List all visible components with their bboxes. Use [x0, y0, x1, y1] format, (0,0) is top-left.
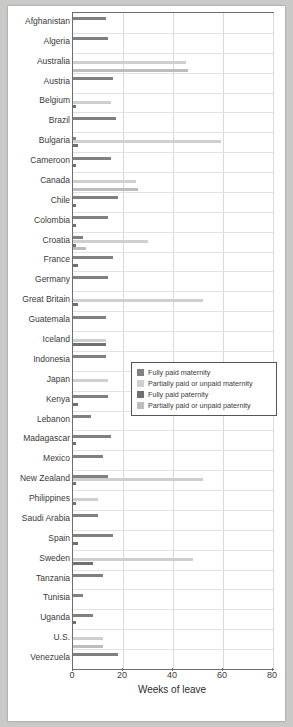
y-axis-label: Australia [10, 57, 70, 66]
chart-legend: Fully paid maternityPartially paid or un… [131, 362, 277, 416]
y-axis-label: Iceland [10, 335, 70, 344]
bar [73, 299, 203, 302]
bar-group [73, 132, 273, 152]
y-axis-label: Brazil [10, 116, 70, 125]
bar-group [73, 112, 273, 132]
x-axis-tick-mark [272, 668, 273, 671]
bar [73, 276, 108, 279]
bar-group [73, 252, 273, 272]
y-axis-label: Sweden [10, 554, 70, 563]
bar [73, 117, 116, 120]
y-axis-label: Germany [10, 275, 70, 284]
y-axis-label: Cameroon [10, 156, 70, 165]
bar-group [73, 649, 273, 669]
x-axis-tick-mark [222, 668, 223, 671]
bar [73, 164, 76, 167]
bar-group [73, 450, 273, 470]
bar-group [73, 510, 273, 530]
y-axis-label: Saudi Arabia [10, 514, 70, 523]
y-axis-label: New Zealand [10, 474, 70, 483]
bar [73, 303, 78, 306]
bar [73, 180, 136, 183]
x-axis-tick-mark [172, 668, 173, 671]
bar [73, 196, 118, 199]
bar [73, 316, 106, 319]
x-axis-tick-label: 0 [69, 670, 74, 680]
y-axis-label: Lebanon [10, 415, 70, 424]
x-axis-tick-mark [72, 668, 73, 671]
bar [73, 61, 186, 64]
bar-group [73, 609, 273, 629]
bar [73, 621, 76, 624]
bar [73, 256, 113, 259]
y-axis-label: Kenya [10, 395, 70, 404]
plot-area [72, 12, 274, 670]
bar [73, 204, 76, 207]
bar [73, 339, 106, 342]
x-axis-tick-label: 40 [167, 670, 177, 680]
legend-item[interactable]: Fully paid paternity [137, 389, 272, 400]
bar [73, 455, 103, 458]
y-axis-label: Mexico [10, 454, 70, 463]
bar [73, 188, 138, 191]
bar-group [73, 470, 273, 490]
y-axis-label: Japan [10, 375, 70, 384]
bar [73, 478, 203, 481]
bar-group [73, 490, 273, 510]
bar-group [73, 152, 273, 172]
bar [73, 653, 118, 656]
bar [73, 69, 188, 72]
x-axis-tick-label: 20 [117, 670, 127, 680]
bar-group [73, 73, 273, 93]
bar [73, 574, 103, 577]
legend-label: Fully paid paternity [148, 390, 208, 399]
y-axis-label: Croatia [10, 236, 70, 245]
y-axis-label: Belgium [10, 96, 70, 105]
legend-swatch-icon [137, 369, 144, 376]
x-axis-tick-mark [122, 668, 123, 671]
x-axis-title: Weeks of leave [72, 684, 272, 695]
bar [73, 435, 111, 438]
legend-label: Partially paid or unpaid maternity [148, 379, 253, 388]
y-axis-label: France [10, 255, 70, 264]
y-axis-label: Austria [10, 77, 70, 86]
bar-group [73, 331, 273, 351]
y-axis-label: Colombia [10, 216, 70, 225]
bar-group [73, 530, 273, 550]
bar-group [73, 172, 273, 192]
legend-item[interactable]: Partially paid or unpaid maternity [137, 378, 272, 389]
bar-group [73, 53, 273, 73]
legend-item[interactable]: Fully paid maternity [137, 367, 272, 378]
y-axis-labels: AfghanistanAlgeriaAustraliaAustriaBelgiu… [8, 12, 70, 668]
bar [73, 534, 113, 537]
bar [73, 475, 108, 478]
bar [73, 157, 111, 160]
bar [73, 101, 111, 104]
bar-group [73, 192, 273, 212]
bar [73, 37, 108, 40]
legend-item[interactable]: Partially paid or unpaid paternity [137, 400, 272, 411]
chart-figure: AfghanistanAlgeriaAustraliaAustriaBelgiu… [8, 6, 285, 721]
bar [73, 17, 106, 20]
bar-group [73, 291, 273, 311]
bar [73, 355, 106, 358]
bar [73, 498, 98, 501]
bar-group [73, 13, 273, 33]
bar [73, 216, 108, 219]
bar [73, 542, 78, 545]
y-axis-label: Philippines [10, 494, 70, 503]
bar-group [73, 271, 273, 291]
bar [73, 415, 91, 418]
legend-swatch-icon [137, 402, 144, 409]
bar [73, 645, 103, 648]
bar [73, 137, 76, 140]
bar-group [73, 232, 273, 252]
bar [73, 105, 76, 108]
bar [73, 614, 93, 617]
legend-swatch-icon [137, 391, 144, 398]
y-axis-label: Bulgaria [10, 136, 70, 145]
x-axis-tick-label: 60 [217, 670, 227, 680]
y-axis-label: Tunisia [10, 593, 70, 602]
bar [73, 379, 108, 382]
bar [73, 244, 76, 247]
